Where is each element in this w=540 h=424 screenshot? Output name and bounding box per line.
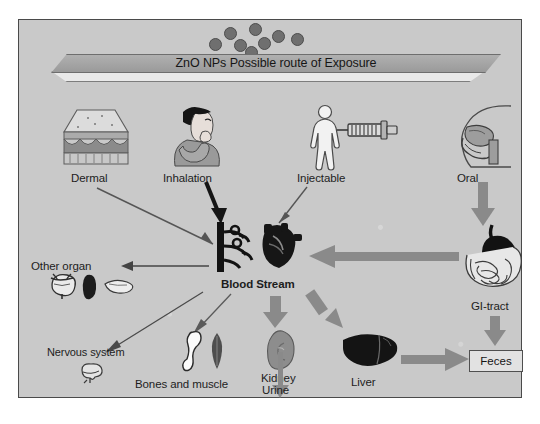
nanoparticle-icon <box>272 30 285 43</box>
arrow-gi-tract-to-bloodstream <box>309 245 459 271</box>
label-gi-tract: GI-tract <box>471 300 509 312</box>
label-nervous-system: Nervous system <box>47 346 124 358</box>
banner: ZnO NPs Possible route of Exposure <box>51 54 501 82</box>
nanoparticle-icon <box>209 38 222 51</box>
stomach-intestine-icon <box>459 225 531 297</box>
liver-icon <box>339 332 399 372</box>
bone-and-muscle-icon <box>179 330 229 372</box>
label-blood-stream: Blood Stream <box>221 278 295 290</box>
arrow-oral-to-gi-tract <box>471 182 497 228</box>
label-bones-and-muscle: Bones and muscle <box>135 378 228 390</box>
nanoparticle-icon <box>249 23 262 36</box>
blood-vessel-and-heart-icon <box>215 222 307 274</box>
arrow-gi-tract-to-feces <box>483 316 509 348</box>
label-urine: Urine <box>262 384 289 396</box>
figure-panel: ZnO NPs Possible route of Exposure Derma… <box>18 19 522 398</box>
nanoparticle-icon <box>258 37 271 50</box>
nanoparticle-icon <box>224 27 237 40</box>
label-liver: Liver <box>351 376 375 388</box>
label-other-organ: Other organ <box>31 260 91 272</box>
arrow-liver-to-feces <box>401 348 471 372</box>
arrow-bloodstream-to-kidney <box>261 296 291 330</box>
arrow-bloodstream-to-other-organ <box>119 258 211 274</box>
woman-inhaling-icon <box>169 104 227 166</box>
cropped-header-remnant <box>0 0 540 10</box>
head-mouth-throat-icon <box>449 104 521 168</box>
label-dermal: Dermal <box>71 172 107 184</box>
body-with-syringe-icon <box>304 104 400 168</box>
skin-cross-section-icon <box>62 108 130 166</box>
arrow-bloodstream-to-liver <box>309 288 355 332</box>
label-injectable: Injectable <box>297 172 345 184</box>
brain-icon <box>77 362 107 384</box>
arrow-inhalation-to-bloodstream <box>201 180 235 228</box>
label-feces: Feces <box>470 351 522 371</box>
nanoparticle-icon <box>291 33 304 46</box>
feces-box: Feces <box>469 350 523 372</box>
banner-title: ZnO NPs Possible route of Exposure <box>51 56 501 70</box>
